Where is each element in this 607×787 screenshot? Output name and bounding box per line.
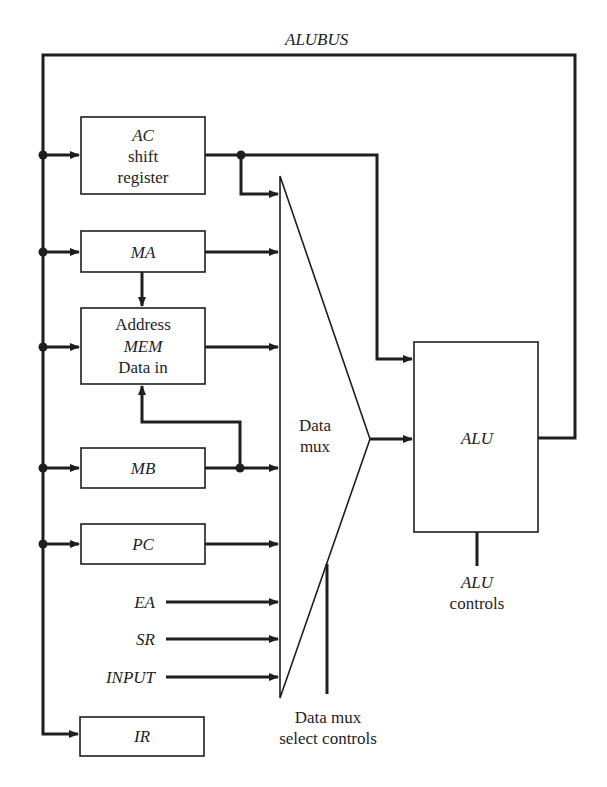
alu-block: ALU xyxy=(414,342,538,532)
data-mux: Data mux xyxy=(280,176,370,698)
bus-feeds xyxy=(39,151,80,549)
ac-label: AC xyxy=(131,126,154,145)
datapath-diagram: ALUBUS AC shift register MA Address MEM … xyxy=(0,0,607,787)
ma-label: MA xyxy=(130,243,156,262)
ac-register: AC shift register xyxy=(81,117,205,194)
mem-address-label: Address xyxy=(115,315,171,334)
ac-register-label: register xyxy=(118,168,169,187)
alubus-label: ALUBUS xyxy=(284,30,349,49)
mux-select-label-1: Data mux xyxy=(295,708,362,727)
alu-controls-label-1: ALU xyxy=(460,573,495,592)
ma-register: MA xyxy=(81,231,205,272)
pc-label: PC xyxy=(131,535,154,554)
sr-label: SR xyxy=(136,630,156,649)
alu-controls-label-2: controls xyxy=(450,594,505,613)
mem-data-in-label: Data in xyxy=(118,358,168,377)
ac-shift-label: shift xyxy=(128,147,159,166)
ac-to-mux-wire xyxy=(241,155,278,194)
ea-label: EA xyxy=(133,593,155,612)
mux-mux-label: mux xyxy=(300,437,331,456)
mux-select-label-2: select controls xyxy=(279,729,377,748)
ir-label: IR xyxy=(133,727,151,746)
pc-register: PC xyxy=(81,524,205,564)
mem-block: Address MEM Data in xyxy=(81,308,205,384)
input-label: INPUT xyxy=(105,668,157,687)
mb-label: MB xyxy=(130,459,156,478)
ir-register: IR xyxy=(80,717,204,756)
mem-label: MEM xyxy=(123,337,164,356)
mb-register: MB xyxy=(81,448,205,488)
mux-data-label: Data xyxy=(299,416,332,435)
alu-label: ALU xyxy=(460,429,495,448)
